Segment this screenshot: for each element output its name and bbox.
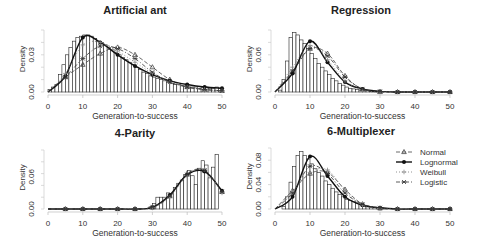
y-tick-label: 0.00 (27, 84, 36, 100)
panel-title: Artificial ant (103, 4, 167, 16)
y-axis: 0.000.06Density (245, 30, 271, 100)
legend-label: Lognormal (420, 158, 458, 167)
x-tick-label: 30 (148, 219, 157, 228)
histogram-bars (282, 152, 387, 209)
figure: Artificial ant01020304050Generation-to-s… (0, 0, 478, 250)
x-tick-label: 10 (78, 102, 87, 111)
x-tick-label: 50 (218, 219, 227, 228)
x-tick-label: 10 (306, 102, 315, 111)
x-tick-label: 30 (376, 102, 385, 111)
y-axis-label: Density (245, 46, 254, 73)
x-tick-label: 0 (273, 102, 278, 111)
x-tick-label: 0 (46, 219, 51, 228)
x-tick-label: 20 (113, 102, 122, 111)
x-tick-label: 40 (411, 219, 420, 228)
y-tick-label: 0.06 (254, 46, 263, 62)
x-axis: 01020304050Generation-to-success (46, 212, 227, 238)
y-axis: 0.000.03Density (18, 30, 44, 100)
y-axis-label: Density (18, 46, 27, 73)
x-axis-label: Generation-to-success (92, 111, 178, 121)
x-tick-label: 40 (183, 219, 192, 228)
x-axis: 01020304050Generation-to-success (46, 95, 227, 121)
x-axis-label: Generation-to-success (320, 111, 406, 121)
x-tick-label: 30 (376, 219, 385, 228)
legend: NormalLognormalWeibullLogistic (396, 148, 458, 187)
x-tick-label: 50 (446, 219, 455, 228)
x-axis-label: Generation-to-success (92, 228, 178, 238)
x-axis: 01020304050Generation-to-success (273, 95, 455, 121)
legend-label: Weibull (420, 168, 446, 177)
x-tick-label: 20 (341, 102, 350, 111)
x-tick-label: 40 (183, 102, 192, 111)
y-tick-label: 0.00 (254, 201, 263, 217)
legend-label: Normal (420, 148, 446, 157)
x-tick-label: 0 (273, 219, 278, 228)
legend-label: Logistic (420, 178, 447, 187)
x-tick-label: 50 (446, 102, 455, 111)
y-axis: 0.000.06Density (18, 150, 44, 217)
x-tick-label: 10 (306, 219, 315, 228)
panel-artificial-ant: Artificial ant01020304050Generation-to-s… (18, 4, 227, 121)
x-tick-label: 40 (411, 102, 420, 111)
panel-title: 4-Parity (115, 127, 156, 139)
y-tick-label: 0.00 (254, 84, 263, 100)
x-tick-label: 50 (218, 102, 227, 111)
y-tick-label: 0.00 (27, 201, 36, 217)
panel-regression: Regression01020304050Generation-to-succe… (245, 4, 455, 121)
legend-entry-lognormal: Lognormal (396, 158, 458, 167)
histogram-bars (279, 32, 384, 92)
x-axis-label: Generation-to-success (320, 228, 406, 238)
x-tick-label: 30 (148, 102, 157, 111)
panel-4-parity: 4-Parity01020304050Generation-to-success… (18, 127, 227, 238)
y-tick-label: 0.06 (27, 168, 36, 184)
x-tick-label: 0 (46, 102, 51, 111)
y-tick-label: 0.08 (254, 152, 263, 168)
y-axis-label: Density (18, 164, 27, 191)
panel-title: 6-Multiplexer (327, 125, 396, 137)
x-axis: 01020304050Generation-to-success (273, 212, 455, 238)
y-tick-label: 0.03 (27, 46, 36, 62)
legend-entry-weibull: Weibull (396, 168, 446, 177)
y-tick-label: 0.04 (254, 176, 263, 192)
x-tick-label: 20 (113, 219, 122, 228)
x-tick-label: 10 (78, 219, 87, 228)
legend-entry-logistic: Logistic (396, 178, 447, 187)
panel-title: Regression (331, 4, 391, 16)
x-tick-label: 20 (341, 219, 350, 228)
y-axis-label: Density (245, 163, 254, 190)
legend-entry-normal: Normal (396, 148, 446, 157)
y-axis: 0.000.040.08Density (245, 148, 271, 217)
histogram-bars (149, 154, 219, 209)
